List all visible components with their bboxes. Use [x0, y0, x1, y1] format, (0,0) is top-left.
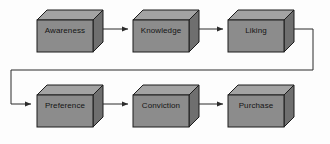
box-shape-preference [37, 85, 103, 129]
box-shape-purchase [228, 85, 294, 129]
node-purchase[interactable]: Purchase [228, 85, 294, 129]
box-shape-conviction [133, 85, 199, 129]
box-shape-liking [228, 10, 294, 54]
box-shape-awareness [37, 10, 103, 54]
node-layer: Awareness Knowledge Liking [0, 0, 330, 144]
box-shape-knowledge [133, 10, 199, 54]
node-conviction[interactable]: Conviction [133, 85, 199, 129]
node-preference[interactable]: Preference [37, 85, 103, 129]
node-liking[interactable]: Liking [228, 10, 294, 54]
diagram-canvas: Awareness Knowledge Liking [0, 0, 330, 144]
node-knowledge[interactable]: Knowledge [133, 10, 199, 54]
node-awareness[interactable]: Awareness [37, 10, 103, 54]
